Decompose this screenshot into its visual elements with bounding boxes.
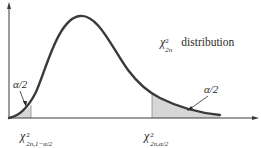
right-pointer-line (190, 96, 208, 109)
y-axis-arrow-icon (7, 2, 11, 9)
left-quantile-label: χ 2 2n,1−α/2 (20, 127, 65, 143)
x-axis-arrow-icon (252, 116, 259, 120)
chi-superscript: 2 (165, 38, 169, 45)
chi-square-diagram (0, 0, 261, 148)
distribution-label: χ 2 2n distribution (160, 33, 234, 49)
right-quantile-label: χ 2 2n,α/2 (144, 127, 179, 143)
chi-subscript: 2n (165, 47, 172, 54)
right-tail-area-label: α/2 (204, 84, 218, 95)
distribution-word: distribution (181, 36, 234, 48)
left-tail-area-label: α/2 (13, 79, 27, 90)
density-curve (9, 16, 220, 118)
